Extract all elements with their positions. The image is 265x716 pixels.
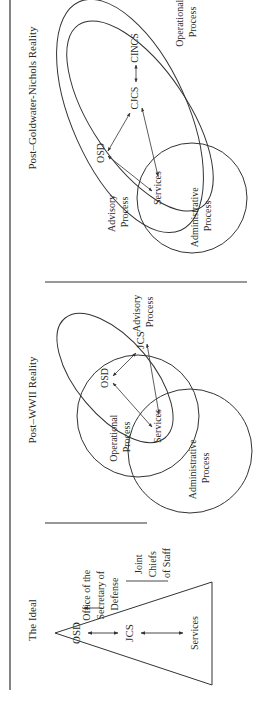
panel-title-post-gn: Post–Goldwater-Nichols Reality [26,26,38,170]
node-services: Services [152,409,163,443]
operational-process-circle [77,355,199,477]
label-operational-process: Operational Process [174,0,198,47]
node-osd: OSD [95,143,106,163]
node-services: Services [152,171,163,205]
arrow-osd-services [108,156,152,191]
node-osd: OSD [70,622,82,644]
panel-post-gn: OSD CJCS CINCS Services Advisory Process… [26,0,247,254]
label-advisory-process: Advisory Process [106,192,130,232]
node-osd: OSD [99,368,110,388]
label-administrative-process: Administrative Process [187,437,211,500]
node-cincs: CINCS [129,33,140,62]
arrow-cjcs-services [142,108,158,176]
diagram-svg: The Ideal Post–WWII Reality Post–Goldwat… [0,0,265,716]
panel-title-post-wwii: Post–WWII Reality [26,356,38,444]
callout-osd: Office of the Secretary of Defense [81,567,120,620]
label-administrative-process: Administrative Process [189,185,213,248]
panel-ideal: OSD JCS Services Office of the Secretary… [55,547,212,685]
panel-title-ideal: The Ideal [26,599,38,641]
node-jcs: JCS [123,624,135,642]
node-jcs: JCS [134,331,146,349]
node-cjcs: CJCS [129,87,140,110]
panel-post-wwii: OSD JCS Services Advisory Process Operat… [36,292,252,513]
node-services: Services [189,616,200,650]
label-advisory-process: Advisory Process [131,292,155,332]
arrow-jcs-services [147,344,159,414]
arrow-osd-cjcs [108,113,130,151]
callout-jcs: Joint Chiefs of Staff [133,547,172,578]
diagram-canvas: The Ideal Post–WWII Reality Post–Goldwat… [0,0,265,716]
advisory-process-ellipse [39,0,242,234]
